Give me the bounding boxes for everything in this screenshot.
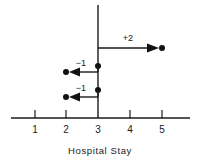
vector-plus-two-label: +2 — [123, 33, 133, 43]
x-tick-label-4: 4 — [127, 124, 133, 135]
x-tick-label-2: 2 — [63, 124, 69, 135]
hospital-stay-vector-diagram: +2 −1 −1 1 2 3 4 5 Hospital Stay — [0, 0, 200, 162]
x-tick-label-3: 3 — [95, 124, 101, 135]
vector-minus-one-upper-label: −1 — [76, 58, 86, 68]
endpoint-dot-at-2-lower — [63, 94, 69, 100]
vector-minus-one-upper-arrowhead — [69, 68, 80, 77]
vector-minus-one-lower-label: −1 — [76, 83, 86, 93]
vector-plus-two-arrowhead — [147, 44, 159, 53]
vector-minus-one-lower-arrowhead — [69, 93, 80, 102]
x-tick-label-1: 1 — [32, 124, 38, 135]
endpoint-dot-at-5 — [159, 45, 165, 51]
x-axis-title: Hospital Stay — [68, 145, 132, 156]
diagram-canvas: +2 −1 −1 1 2 3 4 5 Hospital Stay — [0, 0, 200, 162]
endpoint-dot-at-2-upper — [63, 69, 69, 75]
x-tick-label-5: 5 — [159, 124, 165, 135]
